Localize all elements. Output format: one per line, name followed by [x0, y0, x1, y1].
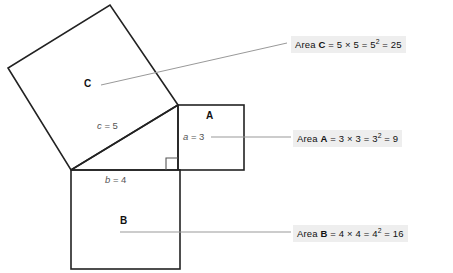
callout-area-a: Area A = 3 × 3 = 32 = 9 [293, 130, 402, 147]
side-label-c: c = 5 [97, 120, 118, 131]
square-label-c: C [84, 78, 91, 89]
callout-area-c: Area C = 5 × 5 = 52 = 25 [291, 36, 406, 53]
callout-b-expr1: = 4 × 4 = 4 [327, 228, 377, 239]
side-label-b: b = 4 [105, 174, 126, 185]
side-val-c: = 5 [102, 120, 118, 131]
callout-b-expr2: = 16 [382, 228, 404, 239]
side-val-a: = 3 [188, 131, 204, 142]
right-angle-icon [166, 158, 178, 170]
callout-b-prefix: Area [297, 228, 320, 239]
square-c-shape [8, 5, 178, 170]
pythagorean-theorem-diagram: C A B c = 5 a = 3 b = 4 Area C = 5 × 5 =… [0, 0, 453, 273]
callout-a-expr2: = 9 [382, 133, 399, 144]
callout-c-expr1: = 5 × 5 = 5 [325, 39, 375, 50]
callout-a-prefix: Area [297, 133, 320, 144]
square-label-b: B [120, 215, 127, 226]
side-val-b: = 4 [110, 174, 126, 185]
callout-a-expr1: = 3 × 3 = 3 [327, 133, 377, 144]
side-label-a: a = 3 [183, 131, 204, 142]
callout-area-b: Area B = 4 × 4 = 42 = 16 [293, 225, 408, 242]
square-label-a: A [206, 110, 213, 121]
callout-c-prefix: Area [295, 39, 318, 50]
callout-c-expr2: = 25 [380, 39, 402, 50]
